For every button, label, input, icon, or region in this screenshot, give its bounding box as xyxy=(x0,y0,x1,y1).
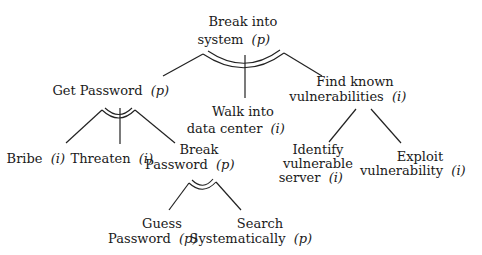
and-arc-root-inner xyxy=(208,50,280,63)
node-findvuln-tag: (i) xyxy=(392,89,406,104)
node-exploit: Exploit vulnerability (i) xyxy=(359,149,466,178)
node-identify: Identify vulnerable server (i) xyxy=(279,142,357,185)
node-guess: Guess Password (p) xyxy=(108,216,197,246)
node-walk: Walk into data center (i) xyxy=(187,104,285,136)
node-getpw-tag: (p) xyxy=(151,83,169,98)
node-guess-line-2: Password xyxy=(108,231,171,246)
node-threaten: Threaten (i) xyxy=(71,151,153,166)
and-arc-getpw-inner xyxy=(105,108,132,115)
edge-findvuln-exploit xyxy=(371,109,401,143)
node-root-line-2: system xyxy=(198,32,244,47)
node-root-tag: (p) xyxy=(252,32,270,47)
node-exploit-tag: (i) xyxy=(451,163,465,178)
node-bribe: Bribe (i) xyxy=(7,151,65,166)
node-search-line-1: Search xyxy=(237,216,284,231)
node-findvuln-line-1: Find known xyxy=(316,74,394,89)
node-identify-tag: (i) xyxy=(329,170,343,185)
edge-getpw-bribe xyxy=(66,110,102,143)
node-getpw-line-1: Get Password xyxy=(52,83,142,98)
node-exploit-line-1: Exploit xyxy=(397,149,444,164)
node-breakpw: Break Password (p) xyxy=(145,142,234,172)
node-identify-line-1: Identify xyxy=(292,142,344,157)
node-root: Break into system (p) xyxy=(198,14,282,47)
node-walk-tag: (i) xyxy=(271,121,285,136)
edge-root-getpw xyxy=(163,54,203,76)
edge-breakpw-guess xyxy=(169,183,189,210)
node-exploit-line-2: vulnerability xyxy=(359,163,444,178)
node-findvuln-line-2: vulnerabilities xyxy=(288,89,383,104)
node-bribe-tag: (i) xyxy=(51,151,65,166)
node-walk-line-2: data center xyxy=(187,121,263,136)
node-findvuln: Find known vulnerabilities (i) xyxy=(288,74,406,104)
edge-root-findvuln xyxy=(284,53,322,76)
node-search-line-2: Systematically xyxy=(189,231,286,246)
node-threaten-line-1: Threaten xyxy=(71,151,132,166)
node-bribe-line-1: Bribe xyxy=(7,151,43,166)
node-breakpw-tag: (p) xyxy=(216,157,234,172)
edge-breakpw-search xyxy=(216,182,241,210)
node-getpw: Get Password (p) xyxy=(52,83,169,98)
node-breakpw-line-1: Break xyxy=(179,142,218,157)
node-root-line-1: Break into xyxy=(209,14,278,29)
node-breakpw-line-2: Password xyxy=(145,157,208,172)
edge-getpw-breakpw xyxy=(135,110,175,143)
node-guess-line-1: Guess xyxy=(142,216,182,231)
node-walk-line-1: Walk into xyxy=(212,104,274,119)
node-identify-line-2: vulnerable xyxy=(282,156,353,171)
and-arc-breakpw-inner xyxy=(192,179,213,185)
node-search: Search Systematically (p) xyxy=(189,216,312,246)
node-identify-line-3: server xyxy=(279,170,322,185)
node-search-tag: (p) xyxy=(294,231,312,246)
attack-tree-diagram: Break into system (p) Get Password (p) W… xyxy=(0,0,482,255)
edge-findvuln-identify xyxy=(329,109,356,142)
